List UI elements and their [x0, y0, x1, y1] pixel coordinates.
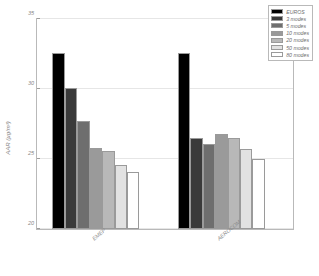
figure: AAR (µg/m³) 20253035 EMEPAEROCOM EUROS3 …: [0, 0, 319, 276]
bar: [65, 88, 77, 229]
legend-item: 3 modes: [271, 15, 309, 22]
legend-item: 80 modes: [271, 51, 309, 58]
legend-swatch: [271, 38, 283, 43]
y-tick-label: 35: [28, 10, 34, 16]
legend-item: 50 modes: [271, 44, 309, 51]
bar: [252, 159, 264, 229]
bar: [215, 134, 227, 229]
legend-swatch: [271, 16, 283, 21]
legend-swatch: [271, 31, 283, 36]
bar: [203, 144, 215, 229]
y-tick-label: 30: [28, 80, 34, 86]
legend-label: 20 modes: [286, 37, 309, 43]
legend-swatch: [271, 52, 283, 57]
legend-label: 3 modes: [286, 16, 306, 22]
bar: [52, 53, 64, 229]
legend-label: 50 modes: [286, 45, 309, 51]
y-tick-mark: [37, 228, 40, 229]
legend: EUROS3 modes5 modes10 modes20 modes50 mo…: [268, 5, 313, 61]
bar: [90, 148, 102, 229]
bar: [228, 138, 240, 229]
bar: [127, 172, 139, 229]
bar: [240, 149, 252, 229]
legend-item: 5 modes: [271, 22, 309, 29]
legend-swatch: [271, 23, 283, 28]
bar: [77, 121, 89, 229]
legend-label: EUROS: [286, 9, 304, 15]
legend-swatch: [271, 9, 283, 14]
legend-swatch: [271, 45, 283, 50]
y-tick-label: 20: [28, 220, 34, 226]
bar-group: [178, 19, 265, 229]
legend-label: 10 modes: [286, 30, 309, 36]
legend-item: 10 modes: [271, 30, 309, 37]
bar-group: [52, 19, 139, 229]
bar: [102, 151, 114, 229]
legend-item: EUROS: [271, 8, 309, 15]
legend-label: 5 modes: [286, 23, 306, 29]
y-tick-mark: [37, 88, 40, 89]
bar: [190, 138, 202, 229]
x-tick-label: EMEP: [91, 227, 107, 242]
bar: [178, 53, 190, 229]
plot-area: 20253035 EMEPAEROCOM: [36, 18, 294, 230]
y-axis-title: AAR (µg/m³): [5, 121, 11, 154]
y-tick-label: 25: [28, 150, 34, 156]
y-tick-mark: [37, 158, 40, 159]
legend-item: 20 modes: [271, 37, 309, 44]
legend-label: 80 modes: [286, 52, 309, 58]
y-tick-mark: [37, 18, 40, 19]
bar: [115, 165, 127, 229]
